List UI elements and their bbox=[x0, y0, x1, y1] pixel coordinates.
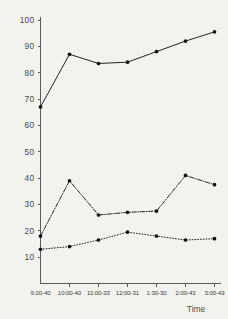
data-point-marker bbox=[155, 209, 159, 213]
data-point-marker bbox=[97, 238, 101, 242]
data-point-marker bbox=[39, 247, 43, 251]
data-point-marker bbox=[213, 237, 217, 241]
series-line bbox=[41, 175, 215, 236]
data-point-marker bbox=[126, 230, 130, 234]
data-point-marker bbox=[97, 213, 101, 217]
series-line bbox=[41, 32, 215, 107]
x-axis-tick-label: 1:30-30 bbox=[147, 289, 168, 296]
data-point-marker bbox=[184, 238, 188, 242]
data-point-marker bbox=[155, 234, 159, 238]
data-point-marker bbox=[184, 39, 188, 43]
y-axis-tick-label: 90 bbox=[25, 41, 35, 51]
y-axis-tick-label: 30 bbox=[25, 199, 35, 209]
x-axis-title: Time bbox=[187, 304, 206, 314]
y-axis-tick-label: 10 bbox=[25, 252, 35, 262]
data-point-marker bbox=[68, 245, 72, 249]
y-axis-tick-label: 20 bbox=[25, 226, 35, 236]
data-point-marker bbox=[155, 50, 159, 54]
y-axis-tick-label: 40 bbox=[25, 173, 35, 183]
x-axis-tick-label: 11:00-33 bbox=[87, 289, 111, 296]
y-axis-tick-label: 100 bbox=[20, 15, 35, 25]
y-axis: 102030405060708090100 bbox=[20, 15, 41, 284]
series-line bbox=[41, 232, 215, 249]
data-point-marker bbox=[39, 105, 43, 109]
x-axis-tick-label: 12:00-31 bbox=[116, 289, 140, 296]
series-series-2 bbox=[39, 174, 217, 238]
series-series-3 bbox=[39, 230, 217, 251]
x-axis-tick-label: 10:00-40 bbox=[58, 289, 82, 296]
data-point-marker bbox=[126, 60, 130, 64]
data-point-marker bbox=[39, 234, 43, 238]
x-axis-tick-label: 3:00-43 bbox=[205, 289, 226, 296]
data-point-marker bbox=[184, 174, 188, 178]
data-point-marker bbox=[68, 52, 72, 56]
data-point-marker bbox=[97, 62, 101, 66]
x-axis-tick-label: 2:00-43 bbox=[176, 289, 197, 296]
line-chart-figure: 102030405060708090100 9:20-4010:00-4011:… bbox=[0, 0, 228, 319]
data-point-marker bbox=[213, 30, 217, 34]
y-axis-tick-label: 70 bbox=[25, 94, 35, 104]
y-axis-tick-label: 50 bbox=[25, 147, 35, 157]
x-axis-tick-label: 9:20-40 bbox=[31, 289, 52, 296]
data-point-marker bbox=[213, 183, 217, 187]
data-point-marker bbox=[68, 179, 72, 183]
y-axis-tick-label: 80 bbox=[25, 68, 35, 78]
y-axis-tick-label: 60 bbox=[25, 120, 35, 130]
chart-canvas: 102030405060708090100 9:20-4010:00-4011:… bbox=[0, 0, 228, 319]
data-series-group bbox=[39, 30, 217, 251]
data-point-marker bbox=[126, 211, 130, 215]
series-series-1 bbox=[39, 30, 217, 109]
x-axis: 9:20-4010:00-4011:00-3312:00-311:30-302:… bbox=[31, 284, 226, 296]
